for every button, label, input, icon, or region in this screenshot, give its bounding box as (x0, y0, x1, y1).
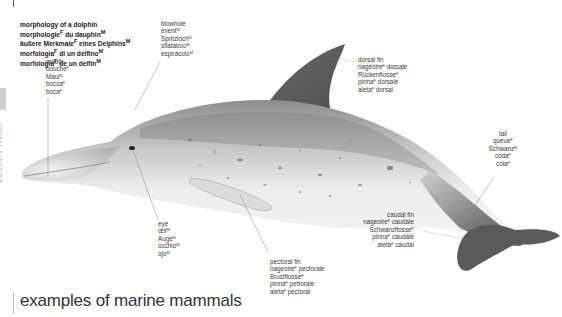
label-mouth: mouth boucheF MaulN boccaF bocaF (46, 58, 69, 95)
label-pectoral-fin: pectoral fin nageoireF pectorale Brustfl… (270, 258, 325, 295)
label-blowhole: blowhole éventM SpritzlochN sfiatatoioM … (161, 20, 193, 57)
section-heading: examples of marine mammals (20, 291, 242, 311)
section-heading-bar (13, 293, 14, 313)
caudal-fin-shape (457, 225, 560, 271)
label-caudal-fin: caudal fin nageoireF caudale Schwanzflos… (356, 211, 414, 248)
title-block: morphology of a dolphin morphologieF du … (20, 21, 130, 68)
title-line-es: morfologíaF de un delfínM (20, 58, 130, 68)
eye-shape (129, 146, 135, 150)
label-dorsal-fin: dorsal fin nageoireF dorsale Rückenfloss… (358, 56, 407, 93)
label-tail: tail queueF SchwanzM codaF colaF (478, 130, 528, 167)
title-line-fr: morphologieF du dauphinM (20, 29, 130, 39)
label-eye: eye œilM AugeN occhioM ojoM (158, 220, 180, 257)
title-line-it: morfologiaF di un delfinoM (20, 48, 130, 58)
title-line-de: äußere MerkmaleF eines DelphinsM (20, 38, 130, 48)
title-line-en: morphology of a dolphin (20, 21, 130, 29)
